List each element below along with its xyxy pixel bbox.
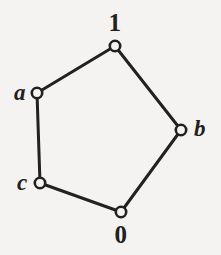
- edge-one-b: [115, 46, 181, 130]
- node-label-zero: 0: [115, 222, 128, 247]
- node-label-b: b: [194, 117, 206, 140]
- node-b[interactable]: [176, 125, 186, 135]
- edge-b-zero: [121, 130, 181, 212]
- node-label-one: 1: [109, 10, 122, 35]
- node-label-a: a: [14, 81, 26, 104]
- nodes-group: [32, 41, 186, 217]
- diagram-canvas: 1 a b c 0: [0, 0, 221, 255]
- pentagon-graph-svg: [0, 0, 221, 255]
- edge-zero-c: [40, 183, 121, 212]
- edges-group: [37, 46, 181, 212]
- node-a[interactable]: [32, 88, 42, 98]
- node-zero[interactable]: [116, 207, 126, 217]
- node-label-c: c: [17, 171, 27, 194]
- node-c[interactable]: [35, 178, 45, 188]
- edge-a-one: [37, 46, 115, 93]
- node-one[interactable]: [110, 41, 120, 51]
- edge-c-a: [37, 93, 40, 183]
